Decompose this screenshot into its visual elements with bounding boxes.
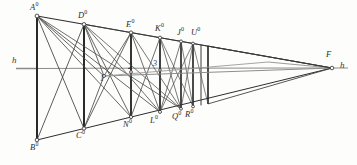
diagonal-J0-R0: [181, 41, 193, 106]
node-2: [130, 71, 133, 74]
node-D0: [82, 23, 86, 27]
diagonal-C0-pt1: [84, 76, 104, 129]
label-B0: B0: [30, 143, 39, 152]
horizon-label-right: h: [340, 61, 345, 70]
label-numeral-1: 1: [100, 75, 104, 83]
label-Q0: Q0: [172, 112, 182, 121]
label-N0: N0: [123, 120, 132, 129]
diagonal-L0-J0: [160, 41, 181, 112]
diagonal-A0-pt1: [37, 16, 104, 76]
node-E0: [129, 31, 132, 34]
diagonal-E0-pt1: [104, 33, 131, 76]
label-D0: D0: [78, 11, 88, 20]
diagonal-Q0-U0: [181, 44, 193, 109]
perspective-figure: h h F A0 D0 E0 K0 J0 U0 B0 C0 N0 L0 Q0 R…: [0, 0, 357, 165]
node-A0: [35, 14, 39, 18]
label-numeral-3: 3: [153, 60, 157, 68]
label-R0: R0: [185, 110, 194, 119]
label-J0: J0: [177, 28, 184, 37]
node-3: [159, 69, 162, 72]
label-A0: A0: [30, 3, 39, 12]
vanishing-point-label-F: F: [326, 50, 331, 59]
node-F-vanishing-point: [330, 66, 334, 70]
horizon-label-left: h: [12, 56, 17, 65]
line-extra8-bottom-to-F: [208, 68, 332, 104]
node-J0: [180, 40, 183, 43]
label-U0: U0: [191, 28, 201, 37]
diagonals-from-C0: [84, 33, 131, 129]
diagonals-from-N0: [131, 38, 160, 117]
diagonal-N0-K0: [131, 38, 160, 117]
diagonal-A0-C0: [37, 16, 84, 129]
figure-linework: [0, 0, 357, 165]
label-C0: C0: [76, 131, 85, 140]
node-U0: [192, 42, 195, 45]
node-L0: [159, 110, 162, 113]
label-numeral-2: 2: [128, 63, 132, 71]
diagonals-small-bays: [181, 41, 208, 108]
diagonal-C0-E0: [84, 33, 131, 129]
label-E0: E0: [126, 20, 135, 29]
label-L0: L0: [150, 116, 158, 125]
label-K0: K0: [155, 24, 164, 33]
node-K0: [158, 36, 161, 39]
mid-construction-lines: [104, 62, 332, 76]
diagonal-A0-L0: [37, 16, 160, 112]
